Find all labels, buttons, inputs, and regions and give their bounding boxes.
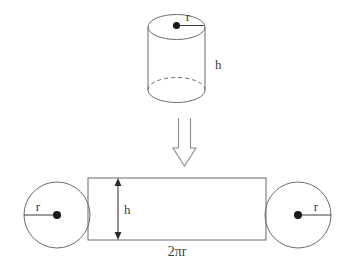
cylinder-bottom-front-arc (148, 90, 205, 103)
downward-unfold-arrow (173, 118, 196, 166)
height-arrowhead-bottom (115, 232, 122, 240)
cylinder-radius-label: r (186, 9, 191, 24)
rectangle-outline (88, 178, 266, 240)
left-circle-radius-label: r (36, 199, 41, 214)
arrow-outline-shape (173, 118, 196, 166)
left-base-circle: r (24, 182, 90, 248)
cylinder-height-label: h (215, 57, 222, 72)
cylinder-net-figure: r h r r (0, 0, 355, 271)
rectangle-width-label: 2πr (168, 244, 187, 259)
right-base-circle: r (265, 182, 331, 248)
rectangle-height-dimension (115, 178, 122, 240)
right-circle-radius-label: r (314, 199, 319, 214)
right-circle-center-dot (294, 211, 302, 219)
lateral-surface-rectangle: h (88, 178, 266, 240)
geometry-diagram: r h r r (0, 0, 355, 271)
cylinder-bottom-hidden-arc (148, 78, 205, 91)
cylinder-center-dot (173, 22, 180, 29)
cylinder-solid: r h (148, 9, 222, 103)
height-arrowhead-top (115, 178, 122, 186)
left-circle-center-dot (53, 211, 61, 219)
rectangle-height-label: h (124, 202, 131, 217)
